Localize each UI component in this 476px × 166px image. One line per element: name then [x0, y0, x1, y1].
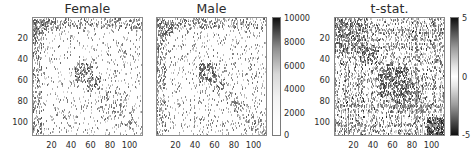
- tstat-colorbar-tick-minus5: -5: [462, 130, 470, 140]
- panel-tstat-plot-area[interactable]: [334, 17, 445, 136]
- panel-female-plot-area[interactable]: [32, 17, 143, 136]
- female-ytick-100: 100: [6, 117, 28, 127]
- tstat-xtick-60: 60: [387, 140, 397, 150]
- female-xtick-40: 40: [66, 140, 76, 150]
- count-colorbar-tick-6000: 6000: [284, 61, 305, 71]
- male-xtick-40: 40: [190, 140, 200, 150]
- female-matrix-canvas: [33, 18, 143, 136]
- female-ytick-20: 20: [10, 33, 28, 43]
- tstat-matrix-canvas: [335, 18, 445, 136]
- female-xtick-80: 80: [105, 140, 115, 150]
- tstat-ytick-80: 80: [312, 96, 330, 106]
- count-colorbar-tick-8000: 8000: [284, 37, 305, 47]
- male-matrix-canvas: [157, 18, 267, 136]
- tstat-ytick-20: 20: [312, 33, 330, 43]
- tstat-colorbar-tick-0: 0: [462, 72, 467, 82]
- male-xtick-20: 20: [170, 140, 180, 150]
- tstat-xtick-80: 80: [407, 140, 417, 150]
- tstat-xtick-100: 100: [424, 140, 440, 150]
- panel-tstat-title: t-stat.: [334, 1, 445, 16]
- male-xtick-100: 100: [246, 140, 262, 150]
- figure-canvas: Female 20 40 60 80 100 20 40 60 80 100 M…: [0, 0, 476, 166]
- female-xtick-60: 60: [85, 140, 95, 150]
- count-colorbar-tick-4000: 4000: [284, 84, 305, 94]
- tstat-ytick-100: 100: [308, 117, 330, 127]
- panel-female-title: Female: [32, 1, 143, 16]
- count-colorbar-tick-10000: 10000: [284, 13, 310, 23]
- count-colorbar-tick-0: 0: [284, 130, 289, 140]
- tstat-colorbar[interactable]: [450, 17, 459, 136]
- count-colorbar-tick-2000: 2000: [284, 108, 305, 118]
- female-xtick-20: 20: [46, 140, 56, 150]
- male-xtick-60: 60: [209, 140, 219, 150]
- panel-male-plot-area[interactable]: [156, 17, 267, 136]
- count-colorbar[interactable]: [272, 17, 281, 136]
- tstat-xtick-20: 20: [348, 140, 358, 150]
- tstat-ytick-40: 40: [312, 54, 330, 64]
- female-ytick-80: 80: [10, 96, 28, 106]
- tstat-xtick-40: 40: [368, 140, 378, 150]
- female-ytick-60: 60: [10, 75, 28, 85]
- male-xtick-80: 80: [229, 140, 239, 150]
- panel-male-title: Male: [156, 1, 267, 16]
- female-xtick-100: 100: [122, 140, 138, 150]
- tstat-ytick-60: 60: [312, 75, 330, 85]
- tstat-colorbar-tick-5: 5: [462, 13, 467, 23]
- female-ytick-40: 40: [10, 54, 28, 64]
